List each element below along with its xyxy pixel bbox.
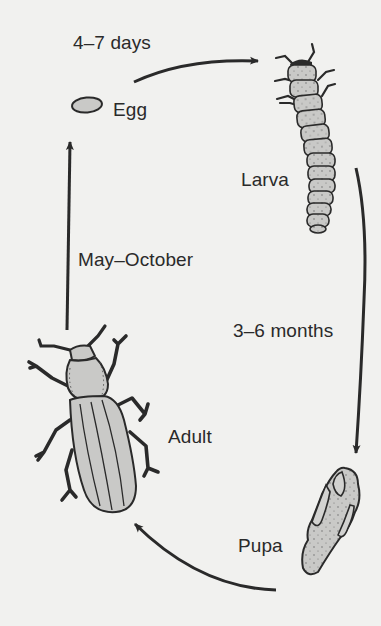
stage-label-egg: Egg xyxy=(113,99,147,121)
larva-icon xyxy=(275,44,335,233)
stage-label-adult: Adult xyxy=(168,426,212,448)
transition-label-adult-to-egg: May–October xyxy=(78,249,193,271)
adult-beetle-icon xyxy=(29,326,158,512)
egg-icon xyxy=(71,96,102,114)
arrow-larva-to-pupa xyxy=(356,168,365,453)
arrow-egg-to-larva xyxy=(134,61,258,82)
beetle-life-cycle-diagram: 4–7 days Egg Larva May–October 3–6 month… xyxy=(0,0,381,626)
transition-label-larva-to-pupa: 3–6 months xyxy=(233,320,333,342)
transition-label-egg-to-larva: 4–7 days xyxy=(73,32,151,54)
stage-label-larva: Larva xyxy=(241,169,289,191)
stage-label-pupa: Pupa xyxy=(238,535,283,557)
diagram-artwork xyxy=(0,0,381,626)
arrow-pupa-to-adult xyxy=(135,524,276,590)
pupa-icon xyxy=(302,468,359,574)
arrow-adult-to-egg xyxy=(67,142,70,330)
